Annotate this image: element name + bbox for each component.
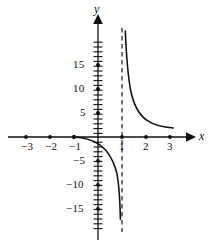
x-tick-label-2: 2 [143,141,149,152]
x-axis-label: x [199,130,204,142]
left-branch-endpoint-dot [72,135,76,139]
x-tick-label-1: 1 [119,141,125,152]
y-tick-label-neg10: −10 [66,179,84,190]
y-tick-label-neg5: −5 [73,155,85,166]
y-tick-label-5: 5 [80,107,86,118]
graph-figure: −3 −2 −1 1 2 3 15 10 5 −5 −10 −15 x y [0,0,211,246]
coordinate-plane [0,0,211,246]
y-tick-label-neg15: −15 [66,203,84,214]
y-axis-label: y [94,3,99,15]
y-axis [93,14,103,240]
x-tick-label-neg3: −3 [21,141,33,152]
y-tick-label-15: 15 [73,59,84,70]
x-tick-label-3: 3 [167,141,173,152]
x-tick-label-neg2: −2 [45,141,57,152]
curve-right-branch [125,31,173,128]
y-tick-label-10: 10 [73,83,84,94]
x-tick-label-neg1: −1 [69,141,81,152]
